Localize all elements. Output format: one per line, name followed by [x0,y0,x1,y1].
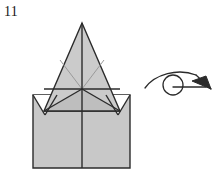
turn-over-arrow-circle [163,75,183,95]
diagram-canvas [0,0,222,182]
step-number-label: 11 [4,4,18,20]
turn-over-arrow [145,72,211,95]
origami-step-diagram: 11 [0,0,222,182]
turn-over-arrow-curve [145,72,196,88]
